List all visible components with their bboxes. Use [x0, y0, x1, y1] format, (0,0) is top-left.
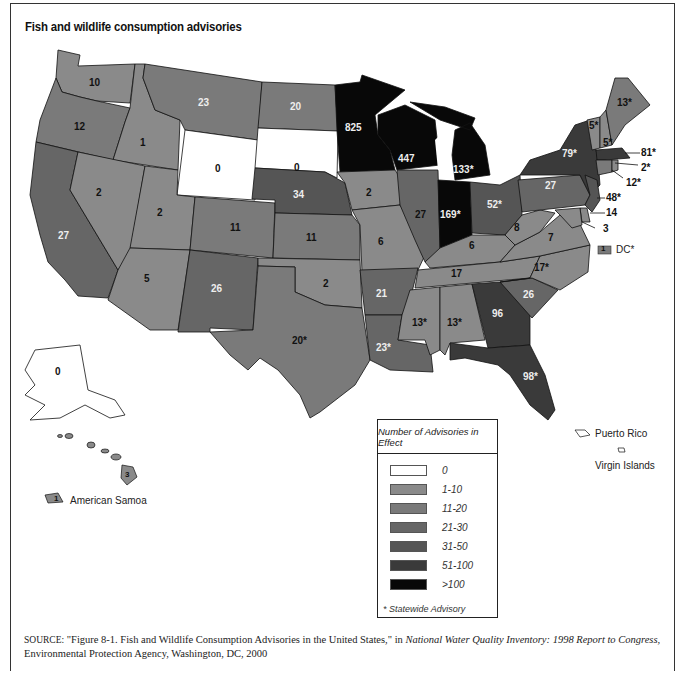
label-nj: 48* — [606, 192, 621, 203]
us-map — [0, 0, 681, 675]
label-ar: 21 — [376, 288, 387, 299]
label-ut: 2 — [157, 207, 163, 218]
label-sd: 0 — [294, 162, 300, 173]
label-ca: 27 — [58, 230, 69, 241]
legend-label: 31-50 — [442, 541, 468, 552]
label-oh: 52* — [487, 199, 502, 210]
label-wv: 8 — [514, 222, 520, 233]
virgin-islands-label: Virgin Islands — [595, 460, 655, 471]
label-nv: 2 — [96, 187, 102, 198]
label-nm: 26 — [211, 283, 222, 294]
label-nd: 20 — [290, 101, 301, 112]
label-tn: 17 — [451, 268, 462, 279]
legend-label: 0 — [442, 465, 448, 476]
state-ct[interactable] — [596, 160, 612, 175]
label-tx: 20* — [292, 335, 307, 346]
legend-note: * Statewide Advisory — [383, 604, 465, 614]
legend-item-2: 11-20 — [390, 503, 467, 514]
label-ne: 34 — [293, 189, 304, 200]
label-sc: 26 — [523, 289, 534, 300]
label-hi: 3 — [125, 470, 129, 479]
label-nh: 5* — [603, 137, 612, 148]
label-mt: 23 — [198, 97, 209, 108]
label-ky: 6 — [469, 240, 475, 251]
label-ri: 2* — [641, 162, 650, 173]
source-text-1: "Figure 8-1. Fish and Wildlife Consumpti… — [64, 634, 405, 645]
label-ny: 79* — [562, 148, 577, 159]
label-id: 1 — [140, 137, 146, 148]
legend-swatch — [390, 560, 427, 571]
virgin-islands-shape[interactable] — [618, 448, 625, 452]
legend-item-0: 0 — [390, 465, 448, 476]
source-citation: SOURCE: "Figure 8-1. Fish and Wildlife C… — [24, 633, 669, 661]
label-ms: 13* — [412, 317, 427, 328]
label-il: 27 — [415, 209, 426, 220]
legend-item-5: 51-100 — [390, 560, 473, 571]
label-pa: 27 — [545, 180, 556, 191]
label-as: 1 — [54, 494, 58, 503]
legend-label: 11-20 — [442, 503, 467, 514]
legend-swatch — [390, 541, 427, 552]
label-wa: 10 — [89, 77, 100, 88]
legend-label: 1-10 — [442, 484, 462, 495]
legend-swatch — [390, 522, 427, 533]
label-ia: 2 — [366, 187, 372, 198]
legend-swatch — [390, 579, 427, 590]
source-title: National Water Quality Inventory: 1998 R… — [405, 634, 660, 645]
label-dc: DC* — [616, 244, 634, 255]
label-al: 13* — [447, 317, 462, 328]
state-ak[interactable] — [25, 345, 125, 420]
state-ma[interactable] — [596, 148, 630, 160]
source-prefix: SOURCE: — [24, 635, 64, 645]
label-dc-value: 1 — [601, 244, 605, 253]
label-nc: 17* — [534, 262, 549, 273]
legend-label: 21-30 — [442, 522, 468, 533]
label-ok: 2 — [323, 278, 329, 289]
state-me[interactable] — [606, 78, 650, 145]
legend-label: >100 — [442, 579, 465, 590]
legend-item-4: 31-50 — [390, 541, 468, 552]
label-ga: 96 — [492, 308, 503, 319]
legend-item-6: >100 — [390, 579, 465, 590]
label-me: 13* — [617, 97, 632, 108]
legend-item-1: 1-10 — [390, 484, 462, 495]
american-samoa-label: American Samoa — [70, 495, 147, 506]
label-ks: 11 — [306, 232, 317, 243]
label-ma: 81* — [641, 147, 656, 158]
puerto-rico-label: Puerto Rico — [595, 428, 647, 439]
label-mo: 6 — [378, 236, 384, 247]
label-mi: 133* — [453, 164, 474, 175]
label-wy: 0 — [215, 163, 221, 174]
label-va: 7 — [548, 232, 554, 243]
legend-title: Number of Advisories in Effect — [378, 420, 497, 454]
legend-label: 51-100 — [442, 560, 473, 571]
label-la: 23* — [376, 342, 391, 353]
label-or: 12 — [74, 121, 85, 132]
label-co: 11 — [230, 222, 241, 233]
source-text-2: Environmental Protection Agency, Washing… — [24, 648, 267, 659]
label-wi: 447 — [398, 153, 415, 164]
label-vt: 5* — [589, 120, 598, 131]
legend-item-3: 21-30 — [390, 522, 468, 533]
puerto-rico-shape[interactable] — [575, 430, 590, 437]
state-fl[interactable] — [450, 343, 555, 420]
label-fl: 98* — [523, 371, 538, 382]
legend: Number of Advisories in Effect 0 1-10 11… — [377, 419, 498, 618]
label-in: 169* — [440, 209, 461, 220]
label-mn: 825 — [345, 122, 362, 133]
label-az: 5 — [144, 273, 150, 284]
label-ak: 0 — [55, 366, 61, 377]
label-md: 3 — [603, 223, 609, 234]
legend-swatch — [390, 484, 427, 495]
label-de: 14 — [606, 207, 617, 218]
legend-swatch — [390, 465, 427, 476]
legend-swatch — [390, 503, 427, 514]
label-ct: 12* — [626, 177, 641, 188]
